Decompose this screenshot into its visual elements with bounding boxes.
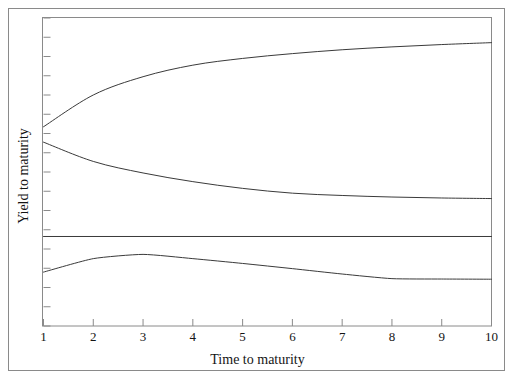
x-tick-label: 5	[228, 330, 258, 343]
x-tick-label: 7	[327, 330, 357, 343]
curve-upward-sloping	[44, 43, 492, 127]
yield-curve-plot	[0, 0, 515, 381]
x-tick-label: 8	[377, 330, 407, 343]
x-axis-ticks	[44, 319, 492, 326]
x-tick-label: 4	[178, 330, 208, 343]
plot-box-border	[43, 18, 492, 327]
x-tick-label: 10	[477, 330, 507, 343]
curve-downward-sloping	[44, 142, 492, 198]
x-tick-label: 6	[277, 330, 307, 343]
x-tick-label: 3	[128, 330, 158, 343]
curve-group	[44, 43, 492, 280]
x-tick-label: 9	[427, 330, 457, 343]
x-tick-label: 2	[78, 330, 108, 343]
y-axis-title: Yield to maturity	[16, 106, 32, 246]
curve-humped	[44, 254, 492, 279]
x-axis-title: Time to maturity	[0, 352, 515, 368]
y-axis-ticks	[44, 18, 51, 326]
figure-container: 12345678910 Time to maturity Yield to ma…	[0, 0, 515, 381]
x-tick-label: 1	[29, 330, 59, 343]
